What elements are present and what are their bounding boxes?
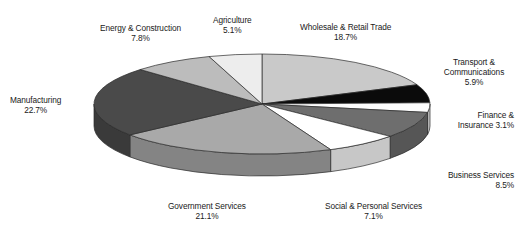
slice-label-transport-communications-name-2: Communications	[434, 67, 514, 77]
slice-label-manufacturing: Manufacturing 22.7%	[10, 95, 61, 115]
slice-label-agriculture: Agriculture 5.1%	[213, 15, 252, 35]
slice-label-business-services-value: 8.5%	[414, 180, 514, 190]
pie-chart: Wholesale & Retail Trade 18.7% Transport…	[0, 0, 517, 240]
slice-label-finance-insurance-name: Finance &	[424, 110, 514, 120]
slice-label-social-personal-services: Social & Personal Services 7.1%	[325, 201, 422, 221]
slice-label-social-personal-services-name: Social & Personal Services	[325, 201, 422, 211]
slice-label-manufacturing-name: Manufacturing	[10, 95, 61, 105]
slice-label-manufacturing-value: 22.7%	[10, 105, 61, 115]
slice-label-social-personal-services-value: 7.1%	[325, 211, 422, 221]
slice-label-business-services: Business Services 8.5%	[414, 170, 514, 190]
slice-label-government-services: Government Services 21.1%	[168, 201, 246, 221]
slice-label-finance-insurance-value: Insurance 3.1%	[424, 120, 514, 130]
slice-label-finance-insurance: Finance & Insurance 3.1%	[424, 110, 514, 130]
slice-label-agriculture-value: 5.1%	[213, 25, 252, 35]
slice-label-agriculture-name: Agriculture	[213, 15, 252, 25]
slice-label-wholesale-retail-trade: Wholesale & Retail Trade 18.7%	[300, 22, 391, 42]
slice-label-energy-construction-value: 7.8%	[100, 33, 181, 43]
slice-label-energy-construction-name: Energy & Construction	[100, 23, 181, 33]
slice-label-wholesale-retail-trade-value: 18.7%	[300, 32, 391, 42]
pie-top-face	[94, 54, 430, 154]
slice-label-wholesale-retail-trade-name: Wholesale & Retail Trade	[300, 22, 391, 32]
slice-label-transport-communications-value: 5.9%	[434, 77, 514, 87]
slice-label-energy-construction: Energy & Construction 7.8%	[100, 23, 181, 43]
slice-label-government-services-name: Government Services	[168, 201, 246, 211]
slice-label-transport-communications-name-1: Transport &	[434, 57, 514, 67]
slice-label-business-services-name: Business Services	[414, 170, 514, 180]
slice-label-government-services-value: 21.1%	[168, 211, 246, 221]
slice-label-transport-communications: Transport & Communications 5.9%	[434, 57, 514, 88]
